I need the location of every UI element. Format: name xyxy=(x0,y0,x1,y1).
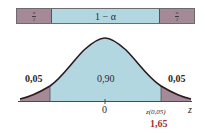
normal-curve-plot xyxy=(0,0,205,137)
right-tail-value: 0,05 xyxy=(168,73,186,84)
left-tail-value: 0,05 xyxy=(25,73,43,84)
axis-zero-label: 0 xyxy=(102,104,107,115)
center-area-value: 0,90 xyxy=(97,73,115,84)
critical-value: 1,65 xyxy=(150,118,168,129)
critical-z-label: z(0,05) xyxy=(146,108,166,116)
axis-variable-label: z xyxy=(188,104,192,115)
